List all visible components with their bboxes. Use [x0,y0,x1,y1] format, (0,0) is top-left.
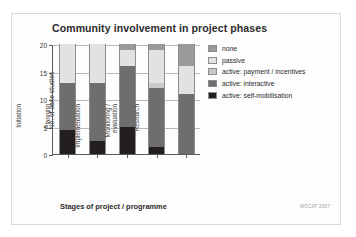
bar-segment [178,66,195,94]
x-axis-tick-label: Implementation [74,104,81,160]
legend-label: active: interactive [222,80,275,87]
x-axis-tick-label: Planning [44,104,51,160]
x-axis-tick [157,154,158,158]
legend-swatch [208,68,217,75]
x-axis-tick [97,154,98,158]
x-axis-tick-label: Research [133,104,140,160]
bar-segment [119,50,136,67]
legend-label: active: payment / incentives [222,68,306,75]
bar-segment [178,44,195,66]
y-axis-tick-label: 20 [40,42,47,49]
legend-label: passive [222,57,245,64]
legend-item: active: payment / incentives [208,66,306,78]
bar-segment [148,44,165,50]
y-axis-tick-label: 10 [40,97,47,104]
chart-legend: nonepassiveactive: payment / incentivesa… [208,43,306,101]
bar-segment [59,44,76,83]
legend-swatch [208,57,217,64]
x-axis-tick [186,154,187,158]
x-axis-tick [68,154,69,158]
bar-segment [148,83,165,89]
legend-label: active: self-mobilisation [222,92,292,99]
plot-area: 05101520InitiationPlanningImplementation… [52,45,200,155]
bar-segment [89,44,106,83]
bar-segment [119,44,136,50]
bar-stack [178,44,195,154]
legend-swatch [208,92,217,99]
y-axis-tick [49,100,53,101]
credit-label: WOCAT 2007 [300,204,330,209]
bar-segment [148,50,165,83]
bar-stack [148,44,165,154]
legend-item: active: self-mobilisation [208,89,306,101]
y-axis-tick [49,73,53,74]
legend-item: passive [208,55,306,67]
bar-segment [148,147,165,154]
x-axis-tick [127,154,128,158]
chart-figure: Community involvement in project phases … [11,13,341,225]
y-axis-tick-label: 15 [40,69,47,76]
x-axis-tick-label: Monitoring / evaluation [104,104,119,160]
legend-swatch [208,80,217,87]
legend-item: active: interactive [208,78,306,90]
legend-swatch [208,45,217,52]
bar-segment [178,94,195,155]
chart-title: Community involvement in project phases [52,22,267,34]
legend-item: none [208,43,306,55]
bar-segment [148,88,165,147]
legend-label: none [222,45,237,52]
x-axis-title: Stages of project / programme [60,202,167,211]
y-axis-tick [49,45,53,46]
x-axis-tick-label: Initiation [15,104,22,160]
